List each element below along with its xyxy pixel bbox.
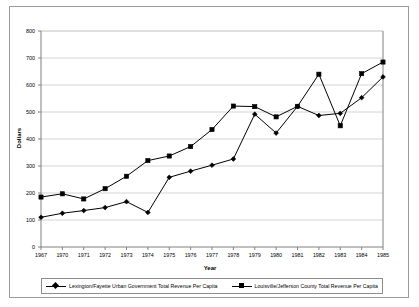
x-tick-label: 1979: [244, 252, 266, 258]
data-point: [103, 205, 108, 210]
x-tick-label: 1978: [222, 252, 244, 258]
x-tick-label: 1985: [372, 252, 394, 258]
data-point: [167, 154, 171, 158]
x-tick-label: 1971: [73, 252, 95, 258]
diamond-marker-icon: [46, 282, 66, 291]
data-point: [381, 60, 385, 64]
data-point: [124, 199, 129, 204]
data-point: [295, 104, 299, 108]
x-tick-label: 1983: [329, 252, 351, 258]
data-point: [124, 174, 128, 178]
data-point: [60, 211, 65, 216]
square-marker-icon: [232, 282, 252, 291]
data-point: [317, 72, 321, 76]
data-point: [274, 115, 278, 119]
data-point: [188, 169, 193, 174]
x-tick-label: 1980: [265, 252, 287, 258]
y-tick-label: 700: [17, 55, 35, 61]
y-tick-label: 600: [17, 82, 35, 88]
x-axis-title: Year: [10, 265, 410, 271]
gridlines-group: [41, 31, 383, 220]
x-tick-label: 1981: [287, 252, 309, 258]
data-point: [81, 208, 86, 213]
data-point: [338, 124, 342, 128]
x-tick-label: 1970: [51, 252, 73, 258]
y-tick-label: 0: [17, 244, 35, 250]
y-tick-label: 200: [17, 190, 35, 196]
x-tick-label: 1975: [158, 252, 180, 258]
y-axis-title: Dollars: [16, 113, 22, 163]
x-tick-label: 1976: [180, 252, 202, 258]
x-tick-label: 1974: [137, 252, 159, 258]
data-point: [146, 159, 150, 163]
data-point: [82, 197, 86, 201]
chart-legend: Lexington/Fayette Urban Government Total…: [41, 278, 383, 294]
data-point: [360, 72, 364, 76]
legend-label-lexington: Lexington/Fayette Urban Government Total…: [69, 283, 217, 289]
y-tick-label: 100: [17, 217, 35, 223]
x-tick-label: 1967: [30, 252, 52, 258]
data-point: [210, 163, 215, 168]
x-tick-label: 1984: [351, 252, 373, 258]
y-tick-label: 800: [17, 28, 35, 34]
x-tick-label: 1973: [116, 252, 138, 258]
tick-marks-group: [38, 31, 383, 250]
x-tick-label: 1982: [308, 252, 330, 258]
data-point: [167, 175, 172, 180]
data-point: [39, 215, 44, 220]
data-point: [145, 210, 150, 215]
data-point: [39, 195, 43, 199]
x-tick-label: 1977: [201, 252, 223, 258]
y-tick-label: 300: [17, 163, 35, 169]
chart-outer-frame: 0100200300400500600700800 19671970197119…: [9, 6, 409, 298]
chart-figure: 0100200300400500600700800 19671970197119…: [0, 0, 419, 307]
legend-label-louisville: Louisville/Jefferson County Total Revenu…: [255, 283, 378, 289]
x-tick-label: 1972: [94, 252, 116, 258]
data-point: [231, 104, 235, 108]
series-line-lexington: [41, 77, 383, 217]
data-point: [103, 187, 107, 191]
legend-item-louisville[interactable]: Louisville/Jefferson County Total Revenu…: [232, 282, 378, 291]
data-point: [60, 192, 64, 196]
data-point: [210, 127, 214, 131]
data-point: [231, 157, 236, 162]
legend-item-lexington[interactable]: Lexington/Fayette Urban Government Total…: [46, 282, 217, 291]
series-group: [39, 60, 386, 220]
data-point: [189, 144, 193, 148]
data-point: [253, 105, 257, 109]
data-point: [316, 113, 321, 118]
